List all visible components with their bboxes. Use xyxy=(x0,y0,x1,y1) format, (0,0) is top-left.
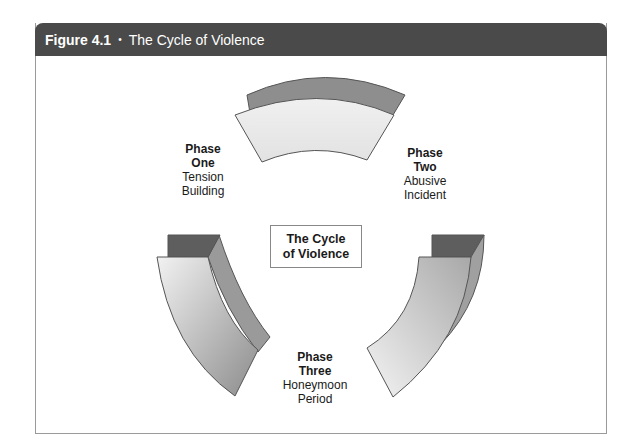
phase-two-heading-1: Phase xyxy=(385,146,465,160)
center-line-1: The Cycle xyxy=(286,232,345,247)
left-arc-arrow xyxy=(157,235,270,396)
phase-one-desc-1: Tension xyxy=(163,170,243,184)
phase-two-label: Phase Two Abusive Incident xyxy=(385,146,465,202)
phase-two-desc-2: Incident xyxy=(385,188,465,202)
phase-one-label: Phase One Tension Building xyxy=(163,142,243,198)
top-arc-arrow xyxy=(235,78,405,163)
phase-three-heading-1: Phase xyxy=(272,350,358,364)
phase-three-desc-2: Period xyxy=(272,392,358,406)
phase-three-label: Phase Three Honeymoon Period xyxy=(272,350,358,406)
phase-three-heading-2: Three xyxy=(272,364,358,378)
right-arc-arrow xyxy=(367,235,484,397)
phase-two-heading-2: Two xyxy=(385,160,465,174)
phase-one-desc-2: Building xyxy=(163,184,243,198)
phase-two-desc-1: Abusive xyxy=(385,174,465,188)
phase-one-heading-2: One xyxy=(163,156,243,170)
phase-three-desc-1: Honeymoon xyxy=(272,378,358,392)
phase-one-heading-1: Phase xyxy=(163,142,243,156)
center-line-2: of Violence xyxy=(283,247,349,262)
center-label-box: The Cycle of Violence xyxy=(270,225,362,268)
